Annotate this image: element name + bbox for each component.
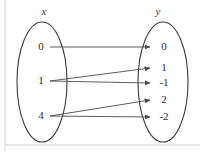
domain-element-1: 1 (38, 74, 44, 86)
domain-element-4: 4 (38, 109, 44, 121)
domain-set-label: x (41, 5, 47, 17)
mapping-diagram-figure: x y 0 1 4 0 1 -1 2 -2 (0, 0, 200, 152)
codomain-element-1: 1 (161, 61, 167, 73)
diagram-canvas: x y 0 1 4 0 1 -1 2 -2 (0, 0, 200, 152)
codomain-element-neg2: -2 (159, 110, 168, 122)
codomain-set-label: y (155, 5, 161, 17)
arrow-4-to-neg2 (50, 116, 150, 117)
codomain-element-neg1: -1 (159, 76, 168, 88)
codomain-element-2: 2 (161, 93, 167, 105)
codomain-element-0: 0 (161, 40, 167, 52)
arrow-1-to-neg1 (50, 81, 150, 83)
arrow-1-to-1 (50, 68, 150, 81)
domain-element-0: 0 (38, 40, 44, 52)
